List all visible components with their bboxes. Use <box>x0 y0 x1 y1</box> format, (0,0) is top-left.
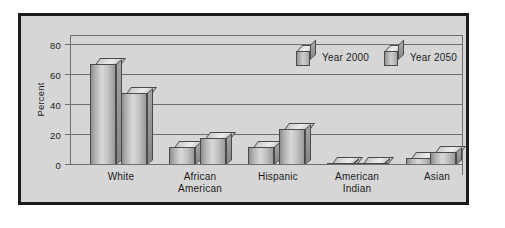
x-tick-label-hispanic: Hispanic <box>238 171 318 183</box>
bar-white-year-2000 <box>90 58 116 165</box>
legend-swatch-year-2000 <box>296 45 317 67</box>
legend-swatch-side-face <box>398 40 404 60</box>
bar-side-face <box>226 132 232 164</box>
plot-area: Percent 80 60 40 20 0 <box>21 16 466 202</box>
bar-african-american-year-2050 <box>200 132 226 165</box>
y-tick-label-60: 60 <box>35 70 61 81</box>
bar-african-american-year-2000 <box>169 141 195 165</box>
x-tick-label-line: African <box>160 171 240 183</box>
y-tick-label-40: 40 <box>35 100 61 111</box>
bar-front-face <box>248 147 274 165</box>
bar-asian-year-2000 <box>406 152 432 165</box>
chart-frame: Percent 80 60 40 20 0 <box>18 13 469 205</box>
x-tick-label-line: American <box>160 183 240 195</box>
bar-front-face <box>90 64 116 165</box>
legend-swatch-side-face <box>310 40 316 60</box>
y-tick-label-0: 0 <box>35 160 61 171</box>
x-tick-label-line: Indian <box>317 183 397 195</box>
legend-swatch-year-2050 <box>384 45 405 67</box>
legend-label-year-2050: Year 2050 <box>410 52 457 63</box>
legend-label-year-2000: Year 2000 <box>322 52 369 63</box>
chart-figure: Percent 80 60 40 20 0 <box>0 0 505 228</box>
legend-item-year-2050[interactable]: Year 2050 <box>384 45 464 67</box>
legend-item-year-2000[interactable]: Year 2000 <box>296 45 376 67</box>
bar-side-face <box>305 123 311 164</box>
bar-hispanic-year-2050 <box>279 123 305 165</box>
chart-legend: Year 2000 Year 2050 <box>296 45 466 69</box>
bar-front-face <box>121 93 147 165</box>
bar-front-face <box>279 129 305 165</box>
legend-swatch-front-face <box>384 51 398 66</box>
bar-asian-year-2050 <box>430 146 456 165</box>
bar-hispanic-year-2000 <box>248 141 274 165</box>
y-axis-line <box>70 35 71 165</box>
bar-front-face <box>200 138 226 165</box>
x-tick-label-african-american: African American <box>160 171 240 194</box>
bar-front-face <box>430 152 456 165</box>
x-tick-label-line: Asian <box>397 171 477 183</box>
y-tick-label-20: 20 <box>35 130 61 141</box>
gridline-60 <box>70 74 462 75</box>
x-tick-label-line: Hispanic <box>238 171 318 183</box>
bar-front-face <box>169 147 195 165</box>
x-tick-label-american-indian: American Indian <box>317 171 397 194</box>
bar-white-year-2050 <box>121 87 147 165</box>
x-axis-line <box>70 164 462 165</box>
bar-side-face <box>147 87 153 164</box>
y-tick-label-80: 80 <box>35 40 61 51</box>
x-tick-label-line: White <box>81 171 161 183</box>
x-tick-label-asian: Asian <box>397 171 477 183</box>
plot-top-border <box>70 35 462 36</box>
x-tick-label-white: White <box>81 171 161 183</box>
legend-swatch-front-face <box>296 51 310 66</box>
x-tick-label-line: American <box>317 171 397 183</box>
